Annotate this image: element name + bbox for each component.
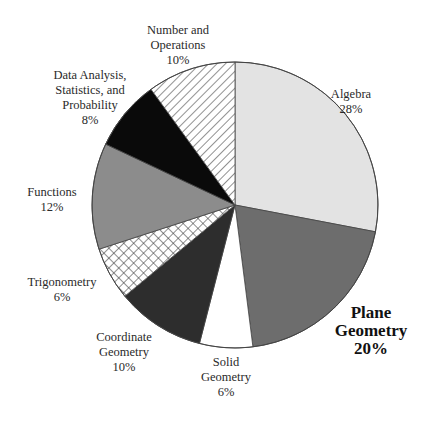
label-percentage: 28% [331, 102, 371, 117]
label-number-operations: Number andOperations10% [147, 23, 209, 68]
label-percentage: 12% [27, 200, 76, 215]
label-trigonometry: Trigonometry6% [28, 275, 97, 305]
label-percentage: 8% [54, 113, 127, 128]
label-text: Solid [201, 355, 251, 370]
label-functions: Functions12% [27, 185, 76, 215]
label-percentage: 10% [96, 360, 152, 375]
label-text: Number and [147, 23, 209, 38]
label-text: Algebra [331, 87, 371, 102]
label-plane-geometry: PlaneGeometry20% [335, 304, 408, 358]
label-text: Coordinate [96, 330, 152, 345]
label-algebra: Algebra28% [331, 87, 371, 117]
label-text: Geometry [96, 345, 152, 360]
label-text: Trigonometry [28, 275, 97, 290]
label-coordinate-geometry: CoordinateGeometry10% [96, 330, 152, 375]
label-percentage: 6% [201, 385, 251, 400]
label-percentage: 10% [147, 53, 209, 68]
label-text: Statistics, and [54, 83, 127, 98]
label-text: Probability [54, 98, 127, 113]
label-data-analysis: Data Analysis,Statistics, andProbability… [54, 68, 127, 128]
label-percentage: 20% [335, 340, 408, 358]
label-solid-geometry: SolidGeometry6% [201, 355, 251, 400]
label-text: Data Analysis, [54, 68, 127, 83]
label-percentage: 6% [28, 290, 97, 305]
label-text: Geometry [201, 370, 251, 385]
label-text: Operations [147, 38, 209, 53]
label-text: Plane [335, 304, 408, 322]
label-text: Geometry [335, 322, 408, 340]
label-text: Functions [27, 185, 76, 200]
